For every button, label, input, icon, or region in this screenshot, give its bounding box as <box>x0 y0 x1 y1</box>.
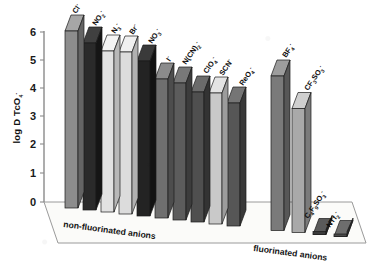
bar-label-SCN: SCN- <box>216 57 234 77</box>
bar-label-NO3: NO3- <box>146 26 164 45</box>
bar-NCN2 <box>173 67 192 220</box>
y-axis <box>40 31 44 202</box>
bar-label-CF3SO3: CF3SO3- <box>302 63 327 93</box>
bar-label-BF4: BF4- <box>280 42 297 60</box>
chart-svg: 6 5 4 3 2 1 0 log D TcO4- <box>0 0 372 275</box>
bar-NO2 <box>83 27 102 210</box>
bar-chart: 6 5 4 3 2 1 0 log D TcO4- <box>0 0 372 275</box>
y-axis-title-main: log D TcO <box>11 98 22 144</box>
y-tick-0: 0 <box>30 196 36 208</box>
bar-label-NO2: NO2- <box>90 8 108 27</box>
bar-label-I: I- <box>163 54 174 63</box>
svg-text:log D TcO4-: log D TcO4- <box>11 92 24 143</box>
bars-group <box>65 15 353 237</box>
y-axis-title: log D TcO4- <box>11 92 24 143</box>
bar-label-ReO4: ReO4- <box>237 65 258 88</box>
y-tick-6: 6 <box>30 26 36 38</box>
bar-SCN <box>209 77 228 224</box>
y-tick-5: 5 <box>30 54 36 66</box>
bar-label-N3: N3- <box>109 21 124 36</box>
bar-Br <box>119 36 138 214</box>
y-tick-4: 4 <box>30 82 37 94</box>
bar-Cl <box>65 15 84 208</box>
bar-label-NCN2: N(CN)2- <box>180 39 204 66</box>
y-tick-labels: 6 5 4 3 2 1 0 <box>30 26 37 208</box>
bar-NO3 <box>137 45 156 216</box>
y-tick-3: 3 <box>30 110 36 122</box>
y-tick-1: 1 <box>30 167 36 179</box>
bar-ReO4 <box>227 87 246 226</box>
bar-label-Br: Br- <box>126 22 140 36</box>
bar-N3 <box>101 35 120 212</box>
bar-CF3SO3 <box>292 93 311 233</box>
group-label-fluorinated: fluorinated anions <box>253 243 328 263</box>
bar-I <box>155 63 174 218</box>
y-axis-title-sup: - <box>13 92 19 94</box>
y-tick-2: 2 <box>30 138 36 150</box>
bar-BF4 <box>271 60 290 231</box>
bar-ClO4 <box>191 76 210 222</box>
bar-label-Cl: Cl- <box>69 2 83 15</box>
